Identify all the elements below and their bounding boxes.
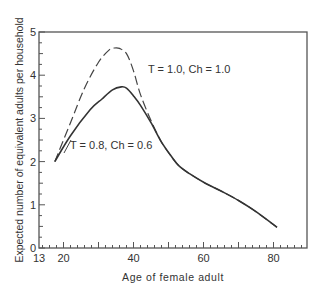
y-axis-label: Expected number of equivalent adults per… [13,17,25,262]
y-tick-label: 2 [30,156,36,168]
line-chart: 012345 1320406080 T = 1.0, Ch = 1.0 T = … [0,0,323,289]
annotation-t1-ch1: T = 1.0, Ch = 1.0 [148,63,230,75]
annotation-t08-ch06: T = 0.8, Ch = 0.6 [70,139,152,151]
y-tick-label: 4 [30,69,36,81]
x-tick-label: 80 [267,252,279,264]
x-axis: 1320406080 [33,242,302,264]
series-line-t08-ch06 [55,87,277,228]
y-tick-label: 1 [30,199,36,211]
x-axis-label: Age of female adult [122,271,224,283]
y-tick-label: 3 [30,112,36,124]
y-axis: 012345 [30,26,45,254]
x-tick-label: 40 [127,252,139,264]
x-tick-label: 13 [33,252,45,264]
x-tick-label: 60 [197,252,209,264]
y-tick-label: 5 [30,26,36,38]
x-tick-label: 20 [57,252,69,264]
